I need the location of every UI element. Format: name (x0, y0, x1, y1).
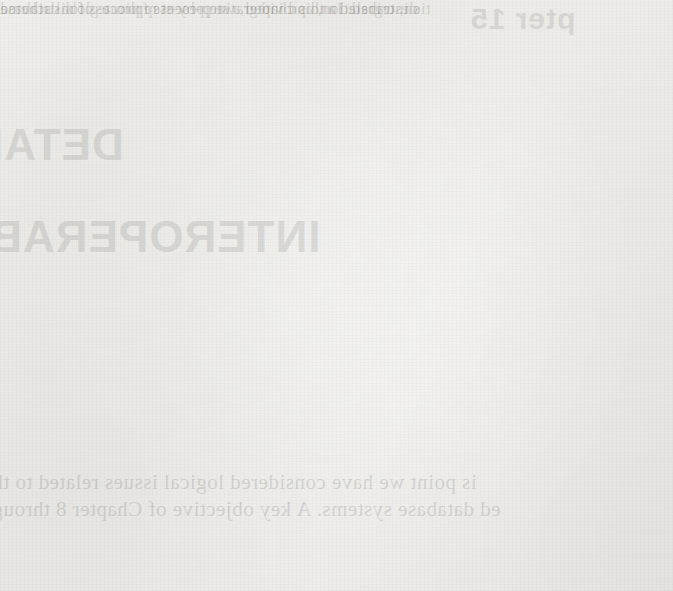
edge-insn-to-integrator (474, 329, 564, 387)
node-ins1[interactable]: InS1 (48, 277, 194, 330)
node-db2[interactable]: Database 2 (244, 44, 400, 101)
node-insn[interactable]: InSn (494, 277, 640, 330)
node-integrator-label: Integrator (322, 405, 391, 422)
node-gcs[interactable]: GCS (256, 505, 408, 562)
ellipsis-row-translators: ... (443, 180, 456, 197)
node-tr2-label: Translator 2 (318, 173, 403, 190)
database-integration-diagram: Database 1 Database 2 Database ... Trans… (0, 0, 673, 591)
node-dbn-label: Database (568, 59, 637, 76)
ellipsis-row-databases: ... (445, 70, 458, 87)
scanned-page: pter 15 DETAI INTEROPERABI is point we h… (0, 0, 673, 591)
node-dbn[interactable]: Database (494, 44, 642, 101)
node-integrator[interactable]: Integrator (150, 391, 495, 446)
node-db2-label: Database 2 (318, 59, 400, 76)
node-ins2[interactable]: InS2 (246, 277, 392, 330)
node-tr1[interactable]: Translator 1 (44, 161, 205, 214)
ellipsis-row-schemas: ... (443, 296, 456, 313)
node-trn[interactable]: Translator n (490, 160, 651, 213)
node-tr2[interactable]: Translator 2 (242, 160, 403, 213)
edge-ins1-to-integrator (121, 329, 182, 387)
node-tr1-label: Translator 1 (120, 174, 205, 191)
node-trn-label: Translator n (566, 173, 651, 190)
node-db1-label: Database 1 (120, 59, 202, 76)
node-gcs-label: GCS (332, 520, 367, 537)
node-db1[interactable]: Database 1 (46, 44, 202, 101)
